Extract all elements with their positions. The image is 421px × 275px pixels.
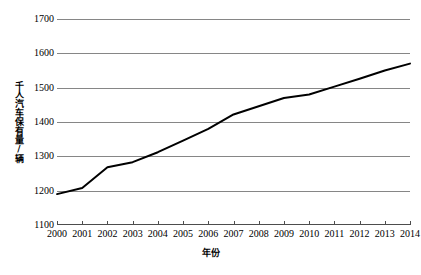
plot-area (57, 19, 410, 225)
x-axis-tick (410, 221, 411, 225)
x-axis-tick-labels: 2000200120022003200420052006200720082009… (57, 228, 410, 242)
x-axis-tick-label: 2002 (97, 228, 117, 239)
data-series-line (57, 19, 410, 225)
x-axis-tick-label: 2013 (375, 228, 395, 239)
x-axis-tick-label: 2004 (148, 228, 168, 239)
x-axis-tick-label: 2014 (400, 228, 420, 239)
x-axis-tick-label: 2000 (47, 228, 67, 239)
y-axis-tick-label: 1500 (26, 83, 54, 93)
y-axis-title: 千人汽车保有量/辆 (11, 62, 27, 182)
y-axis-tick-label: 1300 (26, 151, 54, 161)
x-axis-tick-label: 2010 (299, 228, 319, 239)
x-axis-tick-label: 2008 (249, 228, 269, 239)
y-axis-tick-label: 1400 (26, 117, 54, 127)
x-axis-tick-label: 2001 (72, 228, 92, 239)
x-axis-tick-label: 2006 (198, 228, 218, 239)
x-axis-tick-label: 2009 (274, 228, 294, 239)
x-axis-tick-label: 2011 (325, 228, 345, 239)
x-axis-tick-label: 2007 (224, 228, 244, 239)
x-axis-tick-label: 2005 (173, 228, 193, 239)
y-axis-tick-label: 1200 (26, 186, 54, 196)
x-axis-tick-label: 2012 (350, 228, 370, 239)
line-chart: 千人汽车保有量/辆 1100120013001400150016001700 2… (0, 0, 421, 275)
y-axis-tick-label: 1600 (26, 48, 54, 58)
x-axis-title: 年份 (0, 246, 421, 259)
x-axis-tick-label: 2003 (123, 228, 143, 239)
y-axis-tick-label: 1700 (26, 14, 54, 24)
